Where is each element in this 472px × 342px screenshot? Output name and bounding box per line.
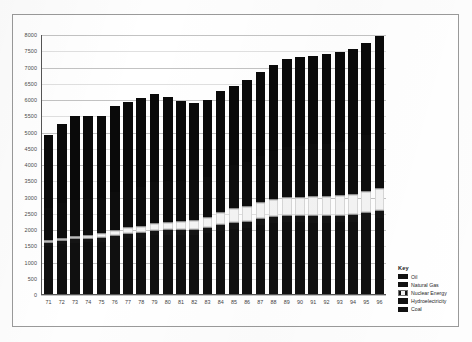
segment-hydroelectricity-92 bbox=[322, 216, 332, 223]
y-tick-label-1000: 1000 bbox=[25, 260, 41, 266]
legend-label-4: Coal bbox=[411, 306, 422, 312]
bar-95 bbox=[361, 43, 371, 294]
bar-81 bbox=[176, 101, 186, 294]
segment-oil-78 bbox=[136, 98, 146, 187]
bar-78 bbox=[136, 98, 146, 294]
bar-slot-85 bbox=[227, 35, 240, 294]
bar-82 bbox=[189, 103, 199, 294]
segment-natural-gas-89 bbox=[282, 147, 292, 197]
bar-72 bbox=[57, 124, 67, 294]
segment-oil-87 bbox=[256, 72, 266, 156]
segment-hydroelectricity-95 bbox=[361, 213, 371, 220]
legend-label-2: Nuclear Energy bbox=[411, 290, 447, 296]
segment-coal-92 bbox=[322, 223, 332, 294]
segment-oil-82 bbox=[189, 103, 199, 181]
y-tick-label-4000: 4000 bbox=[25, 162, 41, 168]
segment-hydroelectricity-94 bbox=[348, 215, 358, 222]
segment-natural-gas-88 bbox=[269, 151, 279, 199]
segment-nuclear-energy-85 bbox=[229, 208, 239, 223]
x-tick-label-73: 73 bbox=[68, 299, 81, 305]
x-tick-label-92: 92 bbox=[320, 299, 333, 305]
segment-oil-85 bbox=[229, 86, 239, 165]
segment-nuclear-energy-77 bbox=[123, 227, 133, 234]
x-tick-label-79: 79 bbox=[148, 299, 161, 305]
bar-slot-75 bbox=[95, 35, 108, 294]
segment-coal-84 bbox=[216, 231, 226, 294]
x-tick-label-72: 72 bbox=[55, 299, 68, 305]
segment-coal-74 bbox=[83, 242, 93, 294]
segment-coal-78 bbox=[136, 238, 146, 294]
bar-74 bbox=[83, 116, 93, 294]
segment-nuclear-energy-94 bbox=[348, 194, 358, 215]
bar-92 bbox=[322, 54, 332, 294]
y-tick-label-3000: 3000 bbox=[25, 195, 41, 201]
segment-coal-95 bbox=[361, 220, 371, 294]
x-axis-tick-labels: 7172737475767778798081828384858687888990… bbox=[42, 295, 386, 321]
legend-item-oil: Oil bbox=[398, 274, 464, 280]
segment-natural-gas-81 bbox=[176, 181, 186, 221]
legend-swatch-icon-4 bbox=[398, 307, 408, 313]
segment-natural-gas-86 bbox=[242, 162, 252, 206]
bar-slot-88 bbox=[267, 35, 280, 294]
x-tick-label-93: 93 bbox=[333, 299, 346, 305]
x-tick-label-75: 75 bbox=[95, 299, 108, 305]
bar-77 bbox=[123, 102, 133, 294]
bar-87 bbox=[256, 72, 266, 294]
segment-natural-gas-79 bbox=[150, 182, 160, 223]
x-tick-label-77: 77 bbox=[121, 299, 134, 305]
segment-natural-gas-95 bbox=[361, 135, 371, 191]
segment-hydroelectricity-96 bbox=[375, 211, 385, 218]
bar-75 bbox=[97, 116, 107, 294]
bar-slot-72 bbox=[55, 35, 68, 294]
bar-slot-92 bbox=[320, 35, 333, 294]
bar-slot-96 bbox=[373, 35, 386, 294]
segment-nuclear-energy-95 bbox=[361, 191, 371, 213]
legend-label-1: Natural Gas bbox=[411, 282, 439, 288]
bar-slot-79 bbox=[148, 35, 161, 294]
bar-83 bbox=[203, 100, 213, 294]
segment-oil-91 bbox=[308, 56, 318, 145]
legend-item-natural-gas: Natural Gas bbox=[398, 282, 464, 288]
x-tick-label-80: 80 bbox=[161, 299, 174, 305]
segment-natural-gas-92 bbox=[322, 144, 332, 196]
legend-swatch-icon-2 bbox=[398, 290, 408, 296]
legend-title: Key bbox=[398, 265, 464, 271]
segment-coal-96 bbox=[375, 218, 385, 294]
chart-legend: Key OilNatural GasNuclear EnergyHydroele… bbox=[398, 265, 464, 314]
segment-natural-gas-78 bbox=[136, 187, 146, 226]
legend-label-3: Hydroelectricity bbox=[411, 298, 446, 304]
x-tick-label-81: 81 bbox=[174, 299, 187, 305]
bar-89 bbox=[282, 59, 292, 294]
y-tick-label-7500: 7500 bbox=[25, 48, 41, 54]
segment-natural-gas-80 bbox=[163, 181, 173, 221]
legend-item-coal: Coal bbox=[398, 306, 464, 312]
segment-nuclear-energy-92 bbox=[322, 196, 332, 216]
x-tick-label-71: 71 bbox=[42, 299, 55, 305]
legend-swatch-icon-0 bbox=[398, 274, 408, 280]
segment-oil-77 bbox=[123, 102, 133, 189]
bar-79 bbox=[150, 94, 160, 294]
bar-85 bbox=[229, 86, 239, 294]
segment-natural-gas-83 bbox=[203, 177, 213, 217]
x-tick-label-85: 85 bbox=[227, 299, 240, 305]
x-tick-label-89: 89 bbox=[280, 299, 293, 305]
bar-90 bbox=[295, 57, 305, 294]
x-tick-label-94: 94 bbox=[346, 299, 359, 305]
y-tick-label-3500: 3500 bbox=[25, 178, 41, 184]
segment-oil-72 bbox=[57, 124, 67, 203]
segment-oil-83 bbox=[203, 100, 213, 177]
bar-94 bbox=[348, 49, 358, 294]
x-tick-label-82: 82 bbox=[188, 299, 201, 305]
bar-88 bbox=[269, 65, 279, 294]
segment-coal-93 bbox=[335, 222, 345, 294]
y-tick-label-5500: 5500 bbox=[25, 113, 41, 119]
segment-oil-80 bbox=[163, 97, 173, 181]
segment-nuclear-energy-84 bbox=[216, 212, 226, 226]
segment-coal-73 bbox=[70, 243, 80, 294]
bar-71 bbox=[44, 135, 54, 294]
bar-slot-86 bbox=[241, 35, 254, 294]
y-tick-label-6000: 6000 bbox=[25, 97, 41, 103]
x-tick-label-76: 76 bbox=[108, 299, 121, 305]
segment-oil-95 bbox=[361, 43, 371, 135]
bar-slot-77 bbox=[121, 35, 134, 294]
